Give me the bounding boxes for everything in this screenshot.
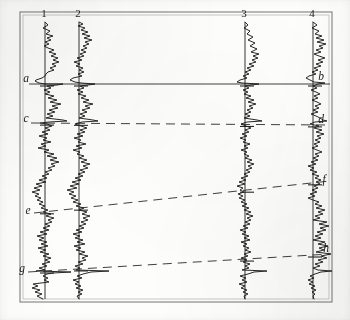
well-log-correlation-figure: 1234 abcdefgh [0,0,350,320]
figure-background [0,0,350,320]
marker-e: e [25,204,30,216]
marker-h: h [323,242,329,254]
correlation-panel-canvas: 1234 abcdefgh [0,0,350,320]
marker-b: b [318,70,324,82]
marker-g: g [19,262,25,275]
marker-c: c [23,112,28,124]
marker-d: d [318,113,324,125]
track-label-3: 3 [241,7,247,19]
track-label-2: 2 [75,7,81,19]
track-label-1: 1 [41,7,47,19]
track-label-4: 4 [309,7,315,19]
marker-a: a [23,72,29,84]
